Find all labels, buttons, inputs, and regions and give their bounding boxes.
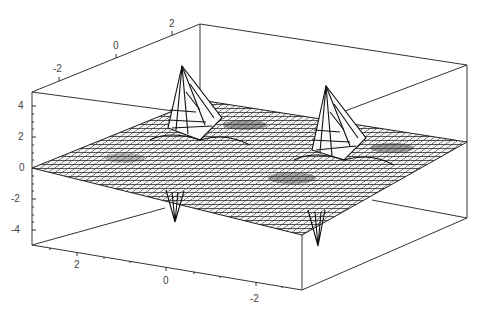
bottom-tick-label: -2 — [250, 294, 259, 304]
top-tick-label: 0 — [113, 41, 119, 51]
top-tick-label: 2 — [169, 19, 175, 29]
z-tick-label: -2 — [11, 194, 20, 204]
z-tick-label: 2 — [18, 132, 24, 142]
top-axis-ticks — [59, 31, 172, 81]
bottom-tick-label: 2 — [74, 260, 80, 270]
z-tick-label: 0 — [19, 163, 25, 173]
surface-plot — [0, 0, 482, 311]
z-tick-label: -4 — [11, 225, 20, 235]
surface-mesh — [32, 100, 467, 235]
z-tick-label: 4 — [18, 101, 24, 111]
top-tick-label: -2 — [53, 64, 62, 74]
bottom-tick-label: 0 — [163, 276, 169, 286]
